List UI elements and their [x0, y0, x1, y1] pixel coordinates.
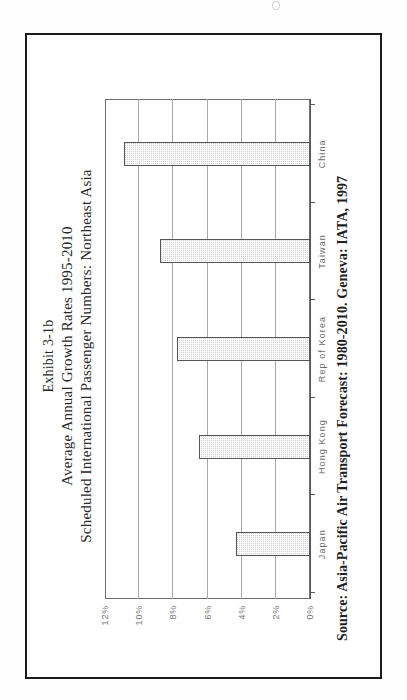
bar-slot — [105, 300, 310, 398]
x-axis-tick — [310, 202, 315, 203]
source-note: Source: Asia-Pacific Air Transport Forec… — [335, 61, 351, 641]
category-label-hong-kong: Hong Kong — [317, 398, 327, 496]
value-tick-label-4pct: 4% — [236, 605, 246, 620]
value-tick-label-12pct: 12% — [100, 605, 110, 625]
exhibit-border-frame: Exhibit 3-1b Average Annual Growth Rates… — [25, 33, 382, 679]
value-tick-label-0pct: 0% — [305, 605, 315, 620]
category-axis-labels: JapanHong KongRep of KoreaTaiwanChina — [317, 99, 327, 599]
exhibit-number-title: Exhibit 3-1b — [39, 43, 58, 669]
bar-china[interactable] — [123, 142, 309, 166]
bar-slot — [105, 203, 310, 301]
x-axis-tick — [310, 592, 315, 593]
value-tick-label-2pct: 2% — [270, 605, 280, 620]
x-axis-tick — [310, 299, 315, 300]
x-axis-line — [310, 99, 311, 599]
category-label-rep-of-korea: Rep of Korea — [317, 300, 327, 398]
bar-rep-of-korea[interactable] — [176, 337, 309, 361]
bars-group — [105, 99, 310, 599]
bar-slot — [105, 105, 310, 203]
exhibit-title-subtitle: Scheduled International Passenger Number… — [77, 43, 96, 669]
x-axis-tick — [310, 494, 315, 495]
category-label-china: China — [317, 105, 327, 203]
value-tick-label-6pct: 6% — [202, 605, 212, 620]
category-label-taiwan: Taiwan — [317, 203, 327, 301]
bar-hong-kong[interactable] — [198, 435, 309, 459]
bar-slot — [105, 398, 310, 496]
bar-taiwan[interactable] — [159, 239, 309, 263]
category-label-japan: Japan — [317, 495, 327, 593]
rotated-figure-stage: Exhibit 3-1b Average Annual Growth Rates… — [35, 43, 373, 669]
x-axis-tick — [310, 397, 315, 398]
exhibit-title-main: Average Annual Growth Rates 1995-2010 — [58, 43, 77, 669]
bar-japan[interactable] — [235, 532, 309, 556]
bar-chart: JapanHong KongRep of KoreaTaiwanChina 0%… — [105, 99, 310, 599]
exhibit-title-block: Exhibit 3-1b Average Annual Growth Rates… — [39, 43, 96, 669]
scan-speck-artifact — [272, 1, 280, 10]
bar-slot — [105, 495, 310, 593]
value-tick-label-8pct: 8% — [168, 605, 178, 620]
value-tick-label-10pct: 10% — [134, 605, 144, 625]
scanned-page: Exhibit 3-1b Average Annual Growth Rates… — [0, 0, 407, 700]
x-axis-tick — [310, 104, 315, 105]
value-axis-labels: 0%2%4%6%8%10%12% — [105, 605, 310, 641]
